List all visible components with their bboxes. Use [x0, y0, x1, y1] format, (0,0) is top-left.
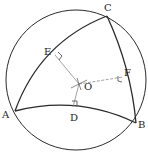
arc-cb — [107, 16, 136, 123]
label-b: B — [138, 119, 145, 130]
spherical-triangle-diagram: A B C D E F O — [0, 0, 148, 160]
label-d: D — [70, 112, 78, 123]
perpendicular-oe — [55, 55, 79, 84]
arc-ac — [15, 16, 107, 111]
label-e: E — [44, 46, 51, 57]
label-c: C — [104, 2, 112, 13]
label-a: A — [1, 109, 10, 120]
perpendicular-od — [73, 84, 79, 107]
label-f: F — [124, 67, 131, 78]
label-o: O — [84, 81, 92, 92]
